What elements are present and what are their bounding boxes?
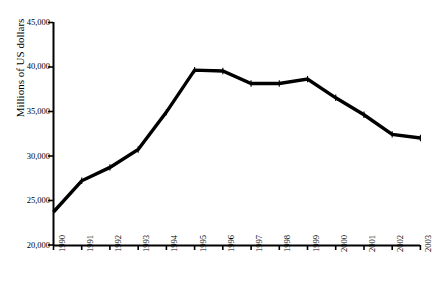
x-tick-label: 1991 bbox=[86, 235, 95, 252]
x-tick-label: 1994 bbox=[170, 235, 179, 252]
x-tick-label: 2003 bbox=[424, 235, 433, 252]
axis-lines bbox=[53, 22, 420, 246]
x-tick-label: 1996 bbox=[227, 235, 236, 252]
data-point-markers bbox=[54, 67, 421, 215]
x-tick-label: 2001 bbox=[368, 235, 377, 252]
x-tick-label: 1999 bbox=[312, 235, 321, 252]
y-axis-ticks bbox=[48, 23, 53, 246]
x-tick-label: 1990 bbox=[58, 235, 67, 252]
x-tick-label: 2002 bbox=[396, 235, 405, 252]
chart-container: Millions of US dollars 45,000 40,000 35,… bbox=[0, 0, 442, 285]
data-series-line bbox=[54, 70, 421, 212]
x-tick-label: 1995 bbox=[199, 235, 208, 252]
x-tick-label: 1997 bbox=[255, 235, 264, 252]
x-tick-label: 2000 bbox=[340, 235, 349, 252]
x-tick-label: 1992 bbox=[114, 235, 123, 252]
x-tick-label: 1998 bbox=[283, 235, 292, 252]
x-tick-label: 1993 bbox=[142, 235, 151, 252]
